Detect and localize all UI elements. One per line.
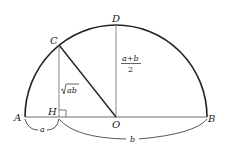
label-B: B — [207, 113, 215, 124]
sqrt-radicand: ab — [67, 86, 77, 95]
label-A: A — [13, 112, 21, 123]
brace-label-a: a — [40, 125, 45, 134]
semicircle-diagram: A B O D C H ab a+b 2 a b — [0, 0, 227, 151]
label-D: D — [111, 13, 120, 24]
label-H: H — [47, 106, 57, 117]
label-sqrt-ab: ab — [61, 84, 79, 95]
segment-CO — [59, 45, 116, 117]
label-C: C — [50, 35, 58, 46]
label-O: O — [112, 119, 120, 130]
fraction-denominator: 2 — [128, 65, 133, 74]
brace-label-b: b — [130, 135, 135, 144]
fraction-numerator: a+b — [122, 54, 139, 63]
right-angle-mark — [59, 110, 66, 117]
label-a-plus-b-over-2: a+b 2 — [121, 54, 141, 74]
